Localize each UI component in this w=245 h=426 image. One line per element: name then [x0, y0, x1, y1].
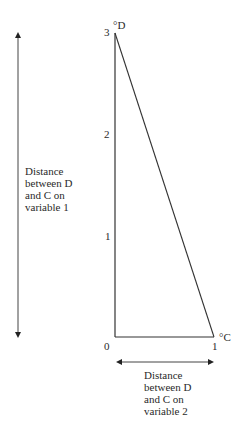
point-c-label: °C: [219, 331, 231, 343]
distance-triangle: [115, 33, 214, 337]
y-tick-3: 3: [104, 27, 110, 38]
x-tick-1: 1: [212, 341, 218, 352]
horizontal-distance-label: Distance between D and C on variable 2: [144, 369, 191, 417]
horizontal-double-arrow: [116, 359, 214, 365]
y-tick-1: 1: [105, 231, 111, 242]
point-d-label: °D: [113, 19, 125, 31]
diagram-canvas: [0, 0, 245, 426]
x-tick-0: 0: [104, 341, 110, 352]
vertical-double-arrow: [15, 32, 21, 338]
vertical-distance-label: Distance between D and C on variable 1: [25, 165, 72, 213]
y-tick-2: 2: [104, 129, 110, 140]
